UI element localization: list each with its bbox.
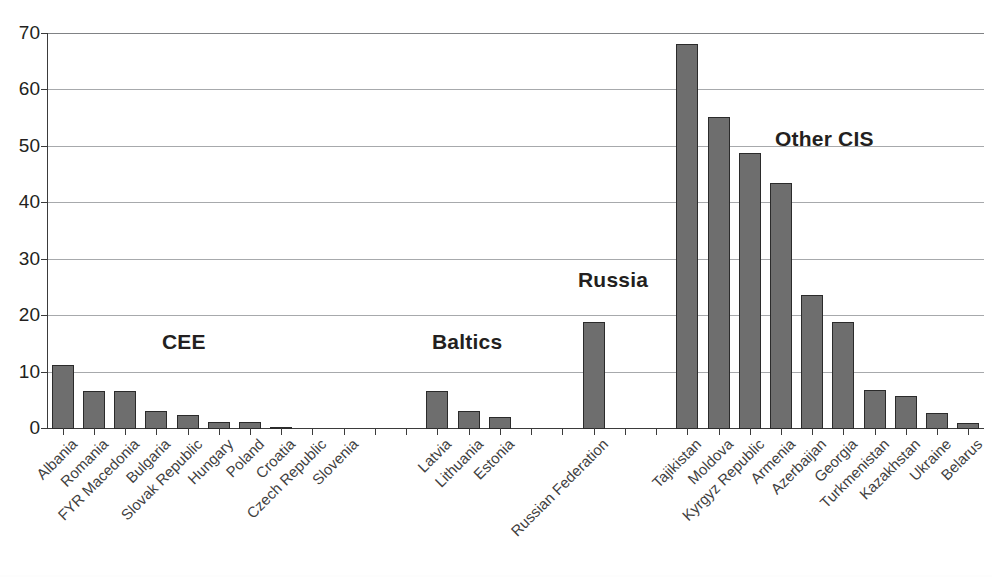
bar-chart: 706050403020100 AlbaniaRomaniaFYR Macedo…: [0, 0, 992, 577]
bar-slot: [141, 33, 172, 429]
bar-slot: [453, 33, 484, 429]
bar: [52, 365, 74, 429]
bar: [770, 183, 792, 429]
bar: [708, 117, 730, 429]
bar-slot: [172, 33, 203, 429]
y-tick-label-70: 70: [0, 23, 40, 42]
y-tick-label-20: 20: [0, 305, 40, 324]
x-tick-mark: [562, 428, 563, 435]
y-tick-label-30: 30: [0, 249, 40, 268]
y-tick-label-60: 60: [0, 79, 40, 98]
bar: [583, 322, 605, 429]
group-label-baltics: Baltics: [432, 331, 502, 352]
x-tick-mark: [125, 428, 126, 435]
bar-slot: [953, 33, 984, 429]
bar: [926, 413, 948, 429]
bar: [895, 396, 917, 429]
x-axis-label-text: Russian Federation: [508, 436, 611, 539]
bar: [832, 322, 854, 429]
bar: [426, 391, 448, 429]
y-tick-label-10: 10: [0, 362, 40, 381]
bar: [177, 415, 199, 429]
bar-slot: [203, 33, 234, 429]
bar-slot: [797, 33, 828, 429]
bar: [864, 390, 886, 430]
bar-slot: [484, 33, 515, 429]
x-tick-mark: [188, 428, 189, 435]
x-tick-mark: [531, 428, 532, 435]
x-tick-mark: [63, 428, 64, 435]
y-tick-label-0: 0: [0, 418, 40, 437]
bar-slot: [578, 33, 609, 429]
x-tick-mark: [937, 428, 938, 435]
group-label-cee: CEE: [162, 331, 206, 352]
x-tick-mark: [469, 428, 470, 435]
x-tick-mark: [843, 428, 844, 435]
x-tick-mark: [781, 428, 782, 435]
x-tick-mark: [625, 428, 626, 435]
bar: [114, 391, 136, 429]
x-tick-mark: [437, 428, 438, 435]
x-tick-mark: [312, 428, 313, 435]
bar: [458, 411, 480, 429]
bar: [83, 391, 105, 429]
bar: [676, 44, 698, 429]
x-tick-mark: [281, 428, 282, 435]
x-tick-mark: [500, 428, 501, 435]
bar-slot: [828, 33, 859, 429]
x-tick-mark: [656, 428, 657, 435]
x-tick-mark: [906, 428, 907, 435]
bar-slot: [922, 33, 953, 429]
y-tick-label-50: 50: [0, 136, 40, 155]
bar-slot: [859, 33, 890, 429]
x-tick-mark: [344, 428, 345, 435]
bar-slot: [734, 33, 765, 429]
x-tick-mark: [156, 428, 157, 435]
group-label-russia: Russia: [578, 269, 648, 290]
x-tick-mark: [812, 428, 813, 435]
x-tick-mark: [406, 428, 407, 435]
bar-slot: [703, 33, 734, 429]
bar-slot: [297, 33, 328, 429]
bar-slot: [765, 33, 796, 429]
x-tick-mark: [968, 428, 969, 435]
bar-slot: [328, 33, 359, 429]
x-tick-mark: [750, 428, 751, 435]
x-tick-mark: [875, 428, 876, 435]
x-tick-mark: [719, 428, 720, 435]
bar-slot: [234, 33, 265, 429]
x-axis-label: Russian Federation: [508, 436, 611, 539]
group-label-other-cis: Other CIS: [775, 128, 874, 149]
x-tick-mark: [219, 428, 220, 435]
x-tick-mark: [375, 428, 376, 435]
x-tick-mark: [250, 428, 251, 435]
x-tick-mark: [94, 428, 95, 435]
y-tick-label-40: 40: [0, 192, 40, 211]
bar: [739, 153, 761, 430]
x-tick-mark: [687, 428, 688, 435]
cropped-title-strip: [0, 0, 992, 10]
bar-slot: [422, 33, 453, 429]
x-tick-mark: [594, 428, 595, 435]
bar-slot: [78, 33, 109, 429]
bar: [145, 411, 167, 429]
bar-slot: [47, 33, 78, 429]
bar-slot: [890, 33, 921, 429]
bar: [801, 295, 823, 429]
bar-slot: [266, 33, 297, 429]
bar-slot: [109, 33, 140, 429]
bars-layer: [47, 33, 984, 429]
bar-slot: [672, 33, 703, 429]
